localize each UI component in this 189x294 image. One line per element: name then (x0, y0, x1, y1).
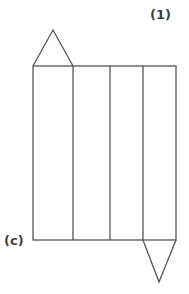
option-letter-label: (c) (4, 233, 24, 248)
top-triangle-face (33, 30, 73, 66)
bottom-triangle-face (143, 240, 176, 282)
prism-net-diagram: (1) (c) (0, 0, 189, 294)
problem-number-label: (1) (150, 7, 171, 22)
net-outer-rectangle (33, 66, 176, 240)
